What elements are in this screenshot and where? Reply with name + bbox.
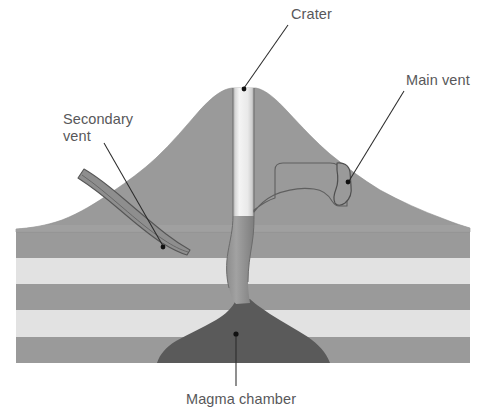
label-crater: Crater bbox=[291, 6, 332, 22]
main-vent-leader-dot bbox=[346, 180, 351, 185]
crater-channel bbox=[234, 88, 253, 216]
volcano-cross-section-figure: Crater Main vent Secondary vent Magma ch… bbox=[0, 0, 486, 416]
magma-chamber-leader-dot bbox=[233, 331, 238, 336]
main-vent-leader-line bbox=[349, 91, 404, 181]
crater-leader-line bbox=[244, 25, 288, 88]
volcano-diagram: Crater Main vent Secondary vent Magma ch… bbox=[0, 0, 486, 416]
label-secondary-vent-line2: vent bbox=[63, 128, 91, 144]
secondary-vent-leader-dot bbox=[161, 245, 166, 250]
label-secondary-vent-line1: Secondary bbox=[63, 111, 134, 127]
label-main-vent: Main vent bbox=[406, 72, 470, 88]
crater-leader-dot bbox=[242, 87, 247, 92]
label-magma-chamber: Magma chamber bbox=[186, 391, 296, 407]
